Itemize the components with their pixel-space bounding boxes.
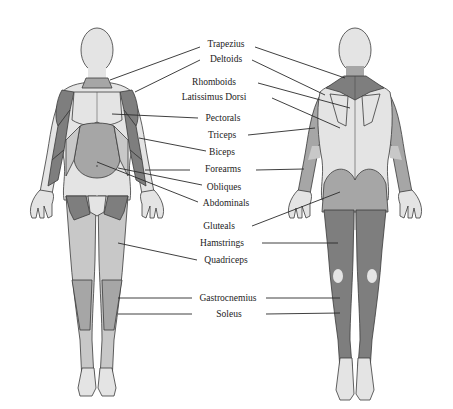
leader-trapezius-front [110,47,200,80]
label-hamstrings: Hamstrings [200,239,244,249]
label-deltoids: Deltoids [210,55,242,65]
back-left-foot [336,358,354,400]
front-right-calf [102,280,122,330]
back-right-hand [399,190,422,218]
front-left-calf [72,280,92,330]
label-obliques: Obliques [207,183,241,193]
front-abdominals [74,123,120,178]
label-gluteals: Gluteals [203,222,235,232]
back-right-leg [356,210,386,370]
front-figure [30,28,163,396]
label-abdominals: Abdominals [203,199,249,209]
back-right-foot [356,358,374,400]
front-trapezius [82,78,112,88]
back-left-leg [324,210,354,370]
label-rhomboids: Rhomboids [192,78,236,88]
leader-biceps [139,138,206,151]
front-right-foot [98,368,116,396]
leader-obliques [118,168,202,185]
label-triceps: Triceps [208,131,236,141]
front-right-hand [141,190,164,218]
leader-forearms-back [256,169,304,170]
label-trapezius: Trapezius [207,40,244,50]
leader-trapezius-back [255,47,345,78]
label-soleus: Soleus [216,310,241,320]
front-left-hand [30,190,53,218]
back-figure [288,28,421,400]
back-head [339,28,371,72]
leader-deltoids-front [135,60,200,92]
label-forearms: Forearms [205,165,241,175]
front-left-foot [78,368,96,396]
label-pectorals: Pectorals [206,114,241,124]
label-quadriceps: Quadriceps [204,256,247,266]
label-gastrocnemius: Gastrocnemius [200,294,257,304]
leader-quadriceps [118,243,197,260]
leader-triceps [248,128,315,135]
label-latissimus-dorsi: Latissimus Dorsi [182,93,247,103]
leader-deltoids-back [252,60,325,95]
label-biceps: Biceps [209,148,235,158]
front-head [81,28,113,72]
leader-soleus-back [266,313,340,314]
